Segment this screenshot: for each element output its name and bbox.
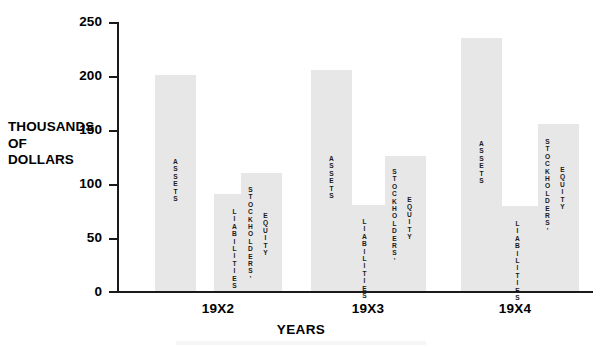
bar-chart: THOUSANDS OF DOLLARS 250 200 150 100 50 … (0, 0, 602, 347)
bar-caption-equity-19X4: EQUITY (558, 166, 567, 210)
bar-caption-assets-19X4: ASSETS (477, 140, 486, 184)
bar-caption-assets-19X2: ASSETS (171, 158, 180, 202)
bar-caption-stockholders-19X2: STOCKHOLDERS' (246, 186, 255, 282)
bar-caption-stockholders-19X3: STOCKHOLDERS' (390, 168, 399, 264)
x-axis-title: YEARS (0, 322, 602, 337)
bar-caption-liabilities-19X2: LIABILITIES (230, 208, 239, 289)
bar-caption-stockholders-19X4: STOCKHOLDERS' (543, 138, 552, 234)
bar-caption-assets-19X3: ASSETS (327, 155, 336, 199)
bar-caption-equity-19X3: EQUITY (405, 196, 414, 240)
bar-caption-liabilities-19X3: LIABILITIES (360, 218, 369, 299)
x-axis-label-19X2: 19X2 (158, 301, 278, 316)
scan-artifact (176, 341, 426, 345)
bars-layer: ASSETS LIABILITIES STOCKHOLDERS' EQUITY … (0, 0, 602, 347)
bar-caption-equity-19X2: EQUITY (261, 212, 270, 256)
bar-caption-liabilities-19X4: LIABILITIES (513, 220, 522, 301)
x-axis-label-19X4: 19X4 (455, 301, 575, 316)
x-axis-label-19X3: 19X3 (308, 301, 428, 316)
